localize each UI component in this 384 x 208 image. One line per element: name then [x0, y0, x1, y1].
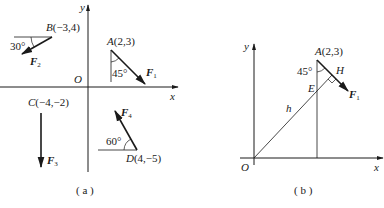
point-c-label: C(−4,−2)	[28, 96, 69, 109]
f3-label: F3	[46, 154, 58, 168]
b-f1-label: F1	[348, 88, 360, 102]
f4-angle-label: 60°	[106, 135, 121, 147]
point-a-label: A(2,3)	[106, 35, 135, 48]
f4-label: F4	[120, 106, 132, 120]
f1-angle-arc	[111, 58, 119, 62]
diagram-canvas: y x O B(−3,4) 30° F2 A(2,3) 45° F1 C(−4,…	[0, 0, 384, 208]
moment-arm-line	[254, 75, 332, 158]
b-angle-label: 45°	[297, 65, 312, 77]
moment-arm-label: h	[286, 102, 292, 114]
b-point-a-label: A(2,3)	[314, 45, 343, 58]
f2-label: F2	[29, 55, 41, 69]
point-d-label: D(4,−5)	[125, 152, 162, 165]
f1-label: F1	[145, 66, 157, 80]
point-e-label: E	[307, 82, 315, 94]
f2-angle-arc	[31, 37, 34, 47]
b-angle-arc	[317, 68, 325, 72]
figure-b: y x O A(2,3) 45° H E h F1 ( b )	[240, 40, 383, 197]
b-x-label: x	[373, 161, 379, 173]
point-b-label: B(−3,4)	[46, 21, 80, 34]
a-origin-label: O	[74, 73, 82, 85]
force-f2-arrow	[22, 37, 52, 54]
right-angle-mark	[328, 79, 336, 83]
f2-angle-label: 30°	[10, 40, 25, 52]
b-y-label: y	[243, 40, 249, 52]
a-y-label: y	[79, 1, 85, 13]
a-x-label: x	[169, 90, 175, 102]
figure-b-caption: ( b )	[294, 184, 313, 197]
f1-angle-label: 45°	[112, 67, 127, 79]
f4-angle-arc	[124, 139, 131, 150]
b-origin-label: O	[241, 161, 249, 173]
figure-a-caption: ( a )	[76, 184, 94, 197]
figure-a: y x O B(−3,4) 30° F2 A(2,3) 45° F1 C(−4,…	[0, 1, 178, 197]
point-h-label: H	[335, 64, 345, 76]
